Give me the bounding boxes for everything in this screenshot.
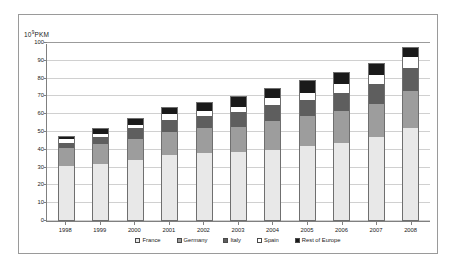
bar-segment-spain <box>299 93 316 100</box>
x-tick-label-2004: 2004 <box>264 227 281 233</box>
bar-segment-france <box>127 160 144 221</box>
bar-segment-spain <box>333 84 350 93</box>
legend-swatch-spain <box>257 238 262 243</box>
bar-segment-france <box>402 128 419 221</box>
bar-segment-rest-of-europe <box>402 47 419 58</box>
legend-swatch-germany <box>177 238 182 243</box>
bar-segment-germany <box>161 132 178 155</box>
x-tick-mark-2000 <box>134 222 135 225</box>
y-tick-label-80: 80 <box>38 75 44 81</box>
x-tick-mark-1999 <box>100 222 101 225</box>
bar-2002[interactable] <box>196 44 213 221</box>
x-tick-label-2003: 2003 <box>229 227 246 233</box>
chart-figure: 109PKM 0102030405060708090100 1998199920… <box>0 0 458 273</box>
y-tick-label-20: 20 <box>38 181 44 187</box>
x-tick-2008: 2008 <box>402 223 419 235</box>
legend-label-italy: Italy <box>230 237 241 243</box>
legend-item-germany[interactable]: Germany <box>177 237 208 243</box>
bar-2005[interactable] <box>299 44 316 221</box>
y-axis-unit-label: 109PKM <box>24 30 49 38</box>
x-tick-mark-2006 <box>342 222 343 225</box>
legend-item-italy[interactable]: Italy <box>223 237 241 243</box>
bar-2001[interactable] <box>161 44 178 221</box>
legend-swatch-rest-of-europe <box>295 238 300 243</box>
x-tick-mark-2002 <box>203 222 204 225</box>
bar-2000[interactable] <box>127 44 144 221</box>
x-tick-label-2000: 2000 <box>126 227 143 233</box>
bar-segment-germany <box>127 139 144 160</box>
y-tick-label-40: 40 <box>38 146 44 152</box>
bar-group <box>47 44 430 221</box>
bar-segment-italy <box>264 105 281 121</box>
x-tick-2006: 2006 <box>333 223 350 235</box>
bar-segment-rest-of-europe <box>368 63 385 75</box>
bar-1998[interactable] <box>58 44 75 221</box>
x-tick-label-2008: 2008 <box>402 227 419 233</box>
bar-segment-rest-of-europe <box>127 118 144 125</box>
legend-label-rest-of-europe: Rest of Europe <box>302 237 341 243</box>
bar-segment-italy <box>92 137 109 144</box>
bar-segment-italy <box>402 68 419 91</box>
x-tick-2004: 2004 <box>264 223 281 235</box>
y-tick-label-70: 70 <box>38 92 44 98</box>
bar-segment-germany <box>92 144 109 164</box>
legend-item-rest-of-europe[interactable]: Rest of Europe <box>295 237 341 243</box>
bar-segment-italy <box>299 100 316 116</box>
bar-segment-italy <box>127 128 144 139</box>
y-axis-unit-base: 10 <box>24 31 32 38</box>
x-tick-2007: 2007 <box>368 223 385 235</box>
x-tick-label-2005: 2005 <box>298 227 315 233</box>
bar-segment-france <box>264 150 281 221</box>
bar-2008[interactable] <box>402 44 419 221</box>
x-tick-mark-1998 <box>65 222 66 225</box>
legend-label-germany: Germany <box>184 237 208 243</box>
y-tick-label-60: 60 <box>38 110 44 116</box>
plot-area: 0102030405060708090100 <box>46 44 430 222</box>
bar-segment-germany <box>58 148 75 166</box>
bar-2004[interactable] <box>264 44 281 221</box>
bar-segment-france <box>333 143 350 221</box>
x-tick-label-2006: 2006 <box>333 227 350 233</box>
y-axis-unit-suffix: PKM <box>34 31 49 38</box>
bar-2003[interactable] <box>230 44 247 221</box>
bar-segment-spain <box>402 57 419 68</box>
bar-segment-rest-of-europe <box>230 96 247 107</box>
x-tick-mark-2004 <box>272 222 273 225</box>
bar-segment-france <box>230 152 247 221</box>
bar-segment-france <box>92 164 109 221</box>
x-axis-labels: 1998199920002001200220032004200520062007… <box>46 223 430 235</box>
x-tick-mark-2007 <box>376 222 377 225</box>
x-tick-mark-2003 <box>238 222 239 225</box>
legend-swatch-france <box>135 238 140 243</box>
y-tick-mark-100 <box>44 42 47 43</box>
y-tick-label-0: 0 <box>41 217 44 223</box>
bar-2006[interactable] <box>333 44 350 221</box>
legend-label-france: France <box>142 237 160 243</box>
x-tick-label-1999: 1999 <box>91 227 108 233</box>
legend-label-spain: Spain <box>264 237 279 243</box>
chart-legend: FranceGermanyItalySpainRest of Europe <box>46 237 430 243</box>
bar-segment-rest-of-europe <box>196 102 213 111</box>
x-tick-2002: 2002 <box>195 223 212 235</box>
x-tick-1998: 1998 <box>57 223 74 235</box>
bar-segment-italy <box>230 112 247 126</box>
bar-segment-italy <box>161 120 178 132</box>
bar-1999[interactable] <box>92 44 109 221</box>
bar-2007[interactable] <box>368 44 385 221</box>
bar-segment-germany <box>196 128 213 153</box>
bar-segment-germany <box>299 116 316 146</box>
legend-item-spain[interactable]: Spain <box>257 237 279 243</box>
legend-swatch-italy <box>223 238 228 243</box>
x-tick-label-2001: 2001 <box>160 227 177 233</box>
y-tick-label-10: 10 <box>38 199 44 205</box>
x-tick-label-2002: 2002 <box>195 227 212 233</box>
bar-segment-germany <box>402 91 419 128</box>
legend-item-france[interactable]: France <box>135 237 160 243</box>
x-tick-mark-2001 <box>169 222 170 225</box>
x-tick-2000: 2000 <box>126 223 143 235</box>
gridline-100: 100 <box>47 42 430 43</box>
bar-segment-spain <box>368 75 385 84</box>
y-tick-label-100: 100 <box>34 39 44 45</box>
x-tick-1999: 1999 <box>91 223 108 235</box>
bar-segment-rest-of-europe <box>333 72 350 84</box>
